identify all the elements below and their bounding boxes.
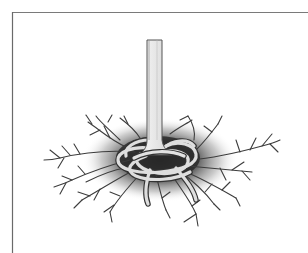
tree-roots-illustration [0, 0, 308, 253]
illustration-frame [0, 0, 308, 253]
